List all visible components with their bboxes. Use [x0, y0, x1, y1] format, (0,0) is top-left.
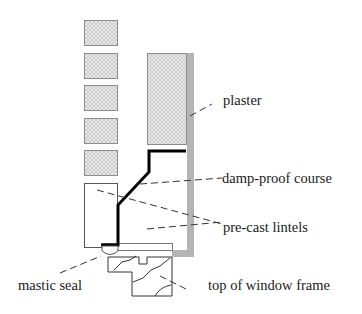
outer-leaf-bricks [85, 21, 118, 176]
brick-3 [85, 86, 118, 111]
label-mastic-seal: mastic seal [18, 277, 82, 293]
brick-2 [85, 54, 118, 79]
outer-pre-cast-lintel [85, 184, 118, 248]
label-damp-proof-course: damp-proof course [222, 170, 332, 186]
window-frame [108, 256, 172, 296]
leader-dpc [140, 178, 222, 184]
label-plaster: plaster [223, 92, 262, 108]
brick-4 [85, 119, 118, 144]
inner-leaf-block [148, 54, 187, 145]
leader-mastic [60, 256, 101, 273]
window-head-section-diagram: plaster damp-proof course pre-cast linte… [0, 0, 362, 314]
label-pre-cast-lintels: pre-cast lintels [223, 219, 308, 235]
leader-lintel-2 [147, 222, 222, 229]
mastic-seal [102, 246, 118, 255]
label-top-of-window-frame: top of window frame [208, 277, 330, 293]
brick-1 [85, 21, 118, 46]
brick-5 [85, 151, 118, 176]
